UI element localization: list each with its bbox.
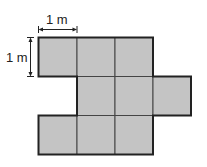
- cell-r0-c1: [77, 38, 115, 77]
- cell-r0-c2: [115, 38, 153, 77]
- width-dimension: [39, 26, 78, 33]
- cell-r1-c3: [153, 77, 191, 116]
- area-diagram: 1 m 1 m: [0, 0, 207, 167]
- cell-r2-c0: [39, 116, 78, 155]
- arrow-down-icon: [29, 72, 33, 77]
- height-dimension: [27, 38, 34, 77]
- arrow-up-icon: [29, 38, 33, 43]
- cell-r1-c2: [115, 77, 153, 116]
- cell-r1-c1: [77, 77, 115, 116]
- cell-r2-c2: [115, 116, 153, 155]
- height-label: 1 m: [6, 50, 28, 65]
- arrow-left-icon: [39, 28, 44, 32]
- cell-r2-c1: [77, 116, 115, 155]
- width-label: 1 m: [46, 12, 68, 27]
- grid-cells: [39, 38, 192, 155]
- arrow-right-icon: [73, 28, 78, 32]
- cell-r0-c0: [39, 38, 78, 77]
